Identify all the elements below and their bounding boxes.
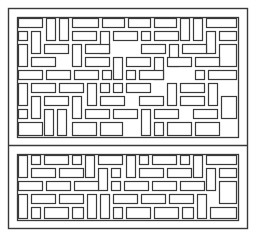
lattice-brick — [181, 182, 205, 191]
lattice-brick — [155, 32, 179, 41]
lattice-brick — [140, 97, 164, 106]
lattice-brick — [220, 182, 237, 204]
lattice-brick — [32, 32, 41, 54]
lattice-brick — [73, 45, 82, 67]
lattice-brick — [183, 45, 207, 54]
lattice-brick — [19, 110, 28, 119]
lattice-brick — [86, 45, 110, 54]
lattice-brick — [198, 195, 207, 219]
lattice-brick — [32, 169, 56, 178]
lattice-brick — [45, 45, 69, 54]
lattice-brick — [101, 195, 110, 219]
lattice-brick — [73, 32, 97, 41]
lattice-brick — [196, 58, 220, 67]
lattice-brick — [207, 169, 216, 191]
lattice-brick — [155, 208, 179, 219]
lattice-brick — [73, 208, 84, 219]
lattice-brick — [32, 195, 56, 204]
lattice-svg — [0, 0, 258, 235]
lattice-brick — [222, 97, 237, 119]
lattice-brick — [73, 97, 82, 119]
lattice-brick — [75, 182, 99, 191]
lattice-brick — [142, 195, 166, 204]
lattice-brick — [181, 97, 205, 106]
lattice-brick — [207, 32, 216, 54]
lattice-brick — [45, 156, 69, 165]
lattice-brick — [220, 45, 237, 67]
lattice-brick — [127, 71, 136, 80]
lattice-brick — [153, 182, 177, 191]
lattice-brick — [127, 208, 151, 219]
lattice-brick — [19, 84, 28, 106]
lattice-brick — [127, 58, 151, 67]
lattice-brick — [47, 71, 71, 80]
lattice-brick — [211, 208, 237, 219]
lattice-brick — [168, 58, 192, 67]
lattice-brick — [101, 84, 110, 93]
lattice-brick — [155, 123, 164, 136]
lattice-brick — [99, 169, 108, 191]
lattice-brick — [45, 110, 54, 136]
lattice-brick — [196, 71, 205, 80]
lattice-brick — [140, 169, 164, 178]
lattice-brick — [60, 195, 84, 204]
lattice-drawing — [0, 0, 258, 235]
lattice-brick — [207, 19, 237, 28]
lattice-brick — [88, 195, 97, 219]
lattice-brick — [181, 156, 190, 165]
lattice-brick — [58, 110, 67, 136]
lattice-brick — [86, 58, 110, 67]
lattice-brick — [19, 45, 28, 67]
lattice-brick — [127, 84, 151, 93]
lattice-brick — [99, 156, 123, 165]
lattice-brick — [155, 19, 177, 28]
lattice-brick — [142, 32, 151, 41]
lattice-brick — [140, 156, 149, 165]
lattice-brick — [196, 123, 220, 136]
lattice-brick — [181, 84, 205, 93]
lattice-brick — [75, 71, 99, 80]
lattice-brick — [19, 32, 28, 41]
lattice-brick — [220, 32, 237, 41]
lattice-brick — [142, 45, 166, 54]
lattice-brick — [86, 156, 95, 178]
lattice-brick — [140, 71, 164, 80]
lattice-brick — [114, 208, 123, 219]
lattice-brick — [112, 169, 121, 178]
lattice-brick — [183, 208, 194, 219]
lattice-brick — [114, 110, 138, 119]
lattice-brick — [19, 19, 43, 28]
lattice-brick — [155, 110, 179, 119]
lattice-brick — [168, 169, 192, 178]
lattice-brick — [181, 19, 190, 41]
lattice-brick — [129, 19, 151, 28]
lattice-brick — [19, 182, 43, 191]
lattice-brick — [101, 97, 125, 106]
lattice-brick — [86, 110, 110, 119]
lattice-brick — [101, 123, 123, 136]
lattice-brick — [207, 156, 237, 165]
lattice-brick — [168, 84, 177, 106]
lattice-brick — [73, 19, 99, 28]
lattice-brick — [60, 169, 84, 178]
lattice-brick — [32, 58, 56, 67]
lattice-brick — [194, 110, 218, 119]
lattice-brick — [220, 169, 237, 178]
lattice-brick — [73, 123, 97, 136]
lattice-brick — [45, 97, 69, 106]
lattice-brick — [114, 84, 123, 93]
lattice-brick — [114, 32, 138, 41]
lattice-brick — [168, 123, 192, 136]
lattice-brick — [194, 19, 203, 41]
lattice-brick — [142, 110, 151, 136]
lattice-brick — [19, 123, 43, 136]
lattice-brick — [19, 71, 43, 80]
lattice-brick — [114, 195, 138, 204]
lattice-brick — [209, 84, 218, 106]
lattice-brick — [45, 208, 69, 219]
lattice-brick — [112, 182, 121, 191]
lattice-brick — [209, 71, 237, 80]
lattice-brick — [153, 156, 177, 165]
lattice-brick — [127, 156, 136, 178]
lattice-brick — [32, 97, 41, 119]
